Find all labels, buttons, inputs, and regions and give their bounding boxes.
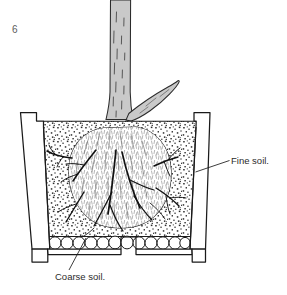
figure-potted-plant-cross-section: 6 Fine soil. Coarse soil. <box>0 0 287 295</box>
pot-base-left <box>48 249 122 255</box>
side-branch <box>126 81 179 121</box>
pot-foot-left <box>32 249 48 262</box>
pebble-layer <box>48 236 191 249</box>
pot-foot-right <box>192 249 206 262</box>
pot-base-right <box>136 249 192 255</box>
label-coarse-soil: Coarse soil. <box>55 271 105 282</box>
main-stem <box>106 0 133 120</box>
figure-number: 6 <box>12 24 18 35</box>
cross-section-drawing <box>0 0 287 295</box>
label-fine-soil: Fine soil. <box>231 155 269 166</box>
